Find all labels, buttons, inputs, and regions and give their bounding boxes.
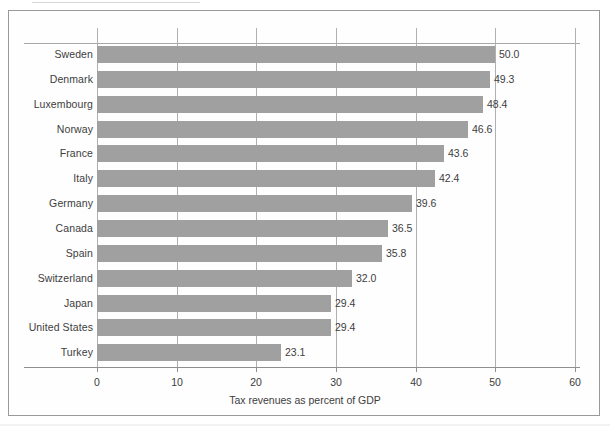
- category-label: Japan: [64, 297, 93, 309]
- bar-value-label: 36.5: [392, 222, 412, 234]
- bar-row: United States29.4: [0, 318, 610, 343]
- bar-row: Sweden50.0: [0, 45, 610, 70]
- x-tick-label: 40: [396, 376, 436, 388]
- x-tick-label: 20: [236, 376, 276, 388]
- bar-value-label: 32.0: [356, 272, 376, 284]
- x-tick-10: [177, 367, 178, 372]
- x-tick-label: 50: [475, 376, 515, 388]
- bar: [97, 319, 331, 336]
- bar-value-label: 50.0: [499, 48, 519, 60]
- category-label: United States: [29, 321, 93, 333]
- bar-value-label: 49.3: [494, 73, 514, 85]
- x-tick-40: [416, 367, 417, 372]
- bar: [97, 121, 468, 138]
- bar-value-label: 48.4: [487, 98, 507, 110]
- bar-value-label: 29.4: [335, 321, 355, 333]
- bar: [97, 71, 490, 88]
- x-tick-label: 30: [316, 376, 356, 388]
- bar-value-label: 46.6: [472, 123, 492, 135]
- x-tick-50: [495, 367, 496, 372]
- x-tick-label: 0: [77, 376, 117, 388]
- bar-row: Italy42.4: [0, 169, 610, 194]
- category-label: France: [60, 147, 93, 159]
- x-tick-60: [575, 367, 576, 372]
- bar: [97, 220, 388, 237]
- bar-row: Turkey23.1: [0, 343, 610, 368]
- x-axis-line: [24, 367, 580, 368]
- category-label: Sweden: [54, 48, 93, 60]
- bar: [97, 344, 281, 361]
- bar-row: France43.6: [0, 144, 610, 169]
- category-label: Norway: [57, 123, 93, 135]
- bar-value-label: 42.4: [439, 172, 459, 184]
- category-label: Turkey: [61, 346, 93, 358]
- category-label: Denmark: [50, 73, 93, 85]
- bar-value-label: 43.6: [448, 147, 468, 159]
- category-label: Spain: [66, 247, 93, 259]
- bar: [97, 46, 495, 63]
- bar: [97, 295, 331, 312]
- plot-top-rule: [24, 43, 580, 44]
- bar: [97, 145, 444, 162]
- bar: [97, 96, 483, 113]
- x-tick-label: 60: [555, 376, 595, 388]
- bar-row: Spain35.8: [0, 244, 610, 269]
- category-label: Switzerland: [38, 272, 93, 284]
- bar-value-label: 29.4: [335, 297, 355, 309]
- bar: [97, 195, 412, 212]
- bar-row: Japan29.4: [0, 294, 610, 319]
- bar-chart-plot-area: Sweden50.0Denmark49.3Luxembourg48.4Norwa…: [0, 0, 610, 426]
- bar-row: Norway46.6: [0, 120, 610, 145]
- category-label: Luxembourg: [34, 98, 93, 110]
- bar-row: Canada36.5: [0, 219, 610, 244]
- x-axis-title: Tax revenues as percent of GDP: [0, 394, 610, 406]
- bar-value-label: 39.6: [416, 197, 436, 209]
- bar-row: Luxembourg48.4: [0, 95, 610, 120]
- bar: [97, 270, 352, 287]
- x-tick-30: [336, 367, 337, 372]
- bar: [97, 245, 382, 262]
- bar-row: Germany39.6: [0, 194, 610, 219]
- bar-row: Switzerland32.0: [0, 269, 610, 294]
- x-tick-0: [97, 367, 98, 372]
- bar: [97, 170, 435, 187]
- bar-value-label: 23.1: [285, 346, 305, 358]
- x-tick-20: [256, 367, 257, 372]
- category-label: Germany: [49, 197, 93, 209]
- x-tick-label: 10: [157, 376, 197, 388]
- bar-row: Denmark49.3: [0, 70, 610, 95]
- category-label: Canada: [56, 222, 93, 234]
- category-label: Italy: [73, 172, 93, 184]
- bar-value-label: 35.8: [386, 247, 406, 259]
